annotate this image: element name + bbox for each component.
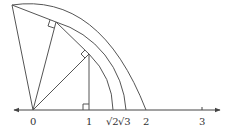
hyp-sqrt3 bbox=[33, 22, 56, 110]
right-angle-2 bbox=[81, 50, 85, 58]
hyp-sqrt2 bbox=[33, 54, 89, 110]
leg-2 bbox=[56, 22, 89, 54]
label-1: 1 bbox=[86, 116, 92, 127]
leg-3 bbox=[12, 5, 56, 22]
label-sqrt3: √3 bbox=[118, 116, 131, 127]
hyp-2 bbox=[12, 5, 33, 110]
label-3: 3 bbox=[199, 116, 205, 127]
label-sqrt2: √2 bbox=[106, 116, 119, 127]
label-2: 2 bbox=[143, 116, 149, 127]
right-angle-1 bbox=[83, 104, 89, 110]
arc-sqrt3 bbox=[56, 22, 126, 110]
label-0: 0 bbox=[30, 116, 36, 127]
arc-2 bbox=[12, 4, 146, 110]
spiral-diagram: 0 1 √2 √3 2 3 bbox=[0, 0, 225, 133]
arc-sqrt2 bbox=[89, 54, 113, 110]
